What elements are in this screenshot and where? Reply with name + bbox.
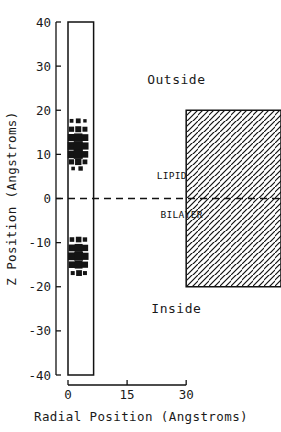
y-tick-label: 10 <box>36 147 51 162</box>
density-marker <box>82 245 88 251</box>
density-marker <box>75 126 81 132</box>
density-marker <box>74 150 83 159</box>
density-marker <box>75 159 81 165</box>
y-tick-label: 0 <box>43 191 51 206</box>
density-marker <box>78 166 82 170</box>
x-axis: 01530 Radial Position (Angstroms) <box>34 380 248 424</box>
y-tick-label: -10 <box>28 235 51 250</box>
x-axis-ticks <box>68 380 186 385</box>
y-tick-label: -40 <box>28 368 51 383</box>
density-marker <box>76 118 81 123</box>
x-tick-label: 0 <box>64 387 72 402</box>
y-axis-tick-labels: -40-30-20-10010203040 <box>28 15 51 383</box>
bilayer-label: BILAYER <box>161 209 203 220</box>
density-marker <box>69 261 76 268</box>
density-marker <box>69 127 74 132</box>
x-axis-title: Radial Position (Angstroms) <box>34 409 248 424</box>
density-marker <box>82 151 89 158</box>
density-marker <box>82 127 87 132</box>
y-tick-label: 40 <box>36 15 51 30</box>
y-tick-label: -20 <box>28 279 51 294</box>
y-tick-label: -30 <box>28 323 51 338</box>
density-marker <box>83 159 88 164</box>
density-marker <box>76 270 82 276</box>
density-marker <box>81 253 88 260</box>
density-marker <box>74 133 82 141</box>
y-tick-label: 30 <box>36 59 51 74</box>
density-marker <box>69 245 76 252</box>
density-marker <box>70 237 75 242</box>
density-marker <box>75 261 83 269</box>
density-marker <box>76 237 82 243</box>
figure-canvas: -40-30-20-10010203040 Z Position (Angstr… <box>0 0 281 432</box>
x-axis-tick-labels: 01530 <box>64 387 193 402</box>
density-marker <box>81 142 88 149</box>
outside-label: Outside <box>147 72 205 87</box>
density-marker <box>69 159 74 164</box>
density-marker <box>71 167 75 171</box>
lipid-label: LIPID <box>157 170 187 181</box>
density-marker <box>82 262 88 268</box>
x-tick-label: 15 <box>120 387 135 402</box>
y-axis-title: Z Position (Angstroms) <box>4 111 19 285</box>
density-marker <box>83 237 87 241</box>
density-marker <box>83 119 86 122</box>
scatter-plot: -40-30-20-10010203040 Z Position (Angstr… <box>0 0 281 432</box>
density-marker <box>83 271 87 275</box>
y-axis: -40-30-20-10010203040 Z Position (Angstr… <box>4 15 61 383</box>
density-marker <box>75 244 83 252</box>
density-marker <box>70 119 74 123</box>
density-marker <box>71 271 75 275</box>
y-tick-label: 20 <box>36 103 51 118</box>
inside-label: Inside <box>151 301 201 316</box>
density-marker <box>82 134 89 141</box>
x-tick-label: 30 <box>179 387 194 402</box>
